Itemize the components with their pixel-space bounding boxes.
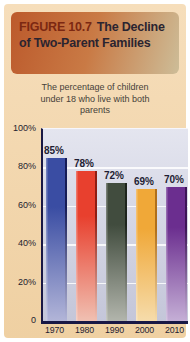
- bar-value-label: 85%: [44, 145, 76, 156]
- bar-1970: [46, 158, 67, 321]
- bar-value-label: 78%: [74, 158, 106, 169]
- y-tick-label: 80%: [2, 161, 36, 171]
- x-axis: 19701980199020002010: [41, 325, 186, 337]
- y-axis: 100%80%60%40%20%0: [4, 128, 38, 320]
- figure-number: FIGURE 10.7: [19, 20, 92, 34]
- bar-1990: [106, 183, 127, 321]
- y-tick-label: 40%: [2, 238, 36, 248]
- y-tick-label: 20%: [2, 277, 36, 287]
- bar-2010: [166, 187, 187, 321]
- bar-2000: [136, 189, 157, 321]
- x-tick-label: 1990: [100, 325, 130, 335]
- x-tick-label: 1970: [40, 325, 70, 335]
- chart-subtitle: The percentage of children under 18 who …: [35, 82, 155, 117]
- x-tick-label: 2000: [130, 325, 160, 335]
- plot-area: 85%78%72%69%70%: [41, 128, 188, 324]
- y-tick-label: 100%: [2, 123, 36, 133]
- figure-header: FIGURE 10.7The Decline of Two-Parent Fam…: [11, 12, 179, 74]
- x-tick-label: 2010: [160, 325, 190, 335]
- y-tick-label: 60%: [2, 200, 36, 210]
- x-tick-label: 1980: [70, 325, 100, 335]
- figure-card: FIGURE 10.7The Decline of Two-Parent Fam…: [4, 4, 186, 338]
- bar-value-label: 70%: [164, 174, 190, 185]
- bar-value-label: 72%: [104, 170, 136, 181]
- bar-1980: [76, 171, 97, 321]
- y-tick-label: 0: [2, 315, 36, 325]
- bar-value-label: 69%: [134, 176, 166, 187]
